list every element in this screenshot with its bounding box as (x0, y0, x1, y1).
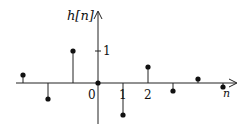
stem-marker (95, 80, 100, 85)
x-axis-label: n (223, 87, 230, 100)
stem-marker (120, 112, 125, 117)
stem-marker (145, 64, 150, 69)
stem-marker (20, 72, 25, 77)
stem-marker (45, 96, 50, 101)
stem-marker (70, 48, 75, 53)
origin-label: 0 (88, 88, 96, 102)
x-tick-label-1: 1 (119, 88, 127, 102)
y-tick-label-1: 1 (103, 44, 111, 58)
stem-marker (195, 76, 200, 81)
stem-marker (170, 88, 175, 93)
y-axis-label: h[n] (67, 8, 95, 23)
x-tick-label-2: 2 (144, 88, 152, 102)
stem-plot: h[n] n 0 1 2 1 (0, 0, 249, 130)
